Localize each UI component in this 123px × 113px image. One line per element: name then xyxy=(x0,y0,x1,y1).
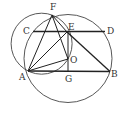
label-a: A xyxy=(18,72,26,82)
label-d: D xyxy=(107,26,114,36)
segment-af xyxy=(28,15,52,71)
label-o: O xyxy=(70,55,77,65)
segment-ab xyxy=(28,71,110,72)
label-e: E xyxy=(68,22,75,32)
segment-fo xyxy=(52,15,68,59)
label-b: B xyxy=(111,69,118,79)
label-c: C xyxy=(23,26,30,36)
label-g: G xyxy=(65,74,72,84)
label-f: F xyxy=(50,2,56,12)
segment-eb xyxy=(67,32,110,72)
geometry-figure: F C E D O A G B xyxy=(0,0,123,113)
